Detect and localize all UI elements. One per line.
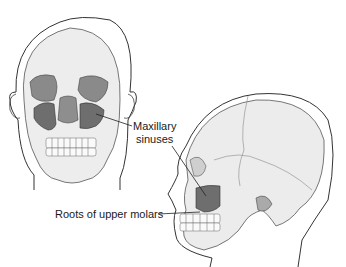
lateral-maxillary-sinus <box>196 185 220 212</box>
nasal-cavity <box>58 96 78 123</box>
frontal-skull-view <box>10 17 137 190</box>
left-eye-socket <box>30 75 57 101</box>
roots-of-upper-molars-label: Roots of upper molars <box>55 208 163 221</box>
lateral-teeth <box>180 214 220 231</box>
maxillary-sinuses-label: Maxillary sinuses <box>133 120 176 146</box>
frontal-teeth <box>46 138 96 156</box>
lateral-skull-view <box>168 94 333 267</box>
maxillary-label-line1: Maxillary <box>133 120 176 133</box>
maxillary-label-line2: sinuses <box>133 133 176 146</box>
right-ear <box>124 94 134 118</box>
